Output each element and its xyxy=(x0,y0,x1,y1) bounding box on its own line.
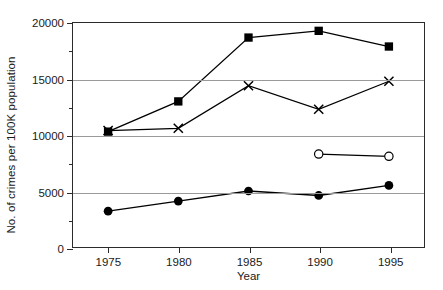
y-tick-minor xyxy=(69,221,73,222)
x-tick xyxy=(391,247,392,253)
y-tick xyxy=(67,136,73,137)
data-point-cross xyxy=(384,77,393,86)
data-point-filled-circle xyxy=(244,187,253,196)
data-point-cross xyxy=(244,81,253,90)
data-point-filled-square xyxy=(385,42,393,50)
data-point-filled-circle xyxy=(104,207,113,216)
y-tick xyxy=(67,23,73,24)
y-tick-label: 10000 xyxy=(32,130,64,142)
gridline-y xyxy=(73,136,424,137)
data-point-open-circle xyxy=(315,150,323,158)
x-tick xyxy=(179,247,180,253)
y-tick-label: 20000 xyxy=(32,17,64,29)
x-tick xyxy=(250,247,251,253)
y-tick-minor xyxy=(69,51,73,52)
data-point-filled-square xyxy=(244,33,252,41)
data-point-cross xyxy=(314,105,323,114)
data-point-filled-circle xyxy=(385,181,394,190)
gridline-y xyxy=(73,193,424,194)
data-point-filled-square xyxy=(315,27,323,35)
gridline-y xyxy=(73,80,424,81)
y-tick-label: 15000 xyxy=(32,74,64,86)
series-line-filled-square-series xyxy=(108,31,389,132)
y-tick xyxy=(67,80,73,81)
plot-area: 0500010000150002000019751980198519901995 xyxy=(72,22,425,248)
y-tick xyxy=(67,249,73,250)
data-point-filled-square xyxy=(174,97,182,105)
x-tick-label: 1995 xyxy=(378,256,404,268)
x-tick-label: 1990 xyxy=(307,256,333,268)
data-point-open-circle xyxy=(385,152,393,160)
x-tick-label: 1980 xyxy=(166,256,192,268)
x-tick-label: 1975 xyxy=(96,256,122,268)
x-tick xyxy=(108,247,109,253)
data-layer xyxy=(73,23,424,247)
data-point-filled-circle xyxy=(174,197,183,206)
y-axis-label: No. of crimes per 100K population xyxy=(0,0,22,290)
x-tick xyxy=(320,247,321,253)
y-tick-label: 5000 xyxy=(38,187,64,199)
series-line-cross-series xyxy=(108,81,389,130)
x-axis-label: Year xyxy=(72,270,425,282)
y-tick-minor xyxy=(69,164,73,165)
y-tick-minor xyxy=(69,108,73,109)
x-tick-label: 1985 xyxy=(237,256,263,268)
data-point-filled-square xyxy=(104,127,112,135)
series-line-open-circle-series xyxy=(319,154,389,156)
crime-rate-line-chart: No. of crimes per 100K population 050001… xyxy=(0,0,443,290)
y-tick-label: 0 xyxy=(58,243,64,255)
y-tick xyxy=(67,193,73,194)
